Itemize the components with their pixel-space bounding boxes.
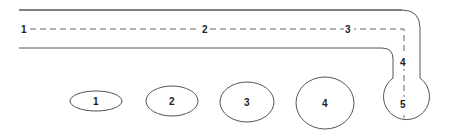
ellipse-label-3: 3 <box>244 97 250 108</box>
path-label-2: 2 <box>202 24 208 35</box>
dashed-centerline <box>30 29 404 118</box>
path-label-4: 4 <box>400 57 406 68</box>
tube-diagram: 1 2 3 4 5 1 2 3 4 <box>0 0 450 137</box>
tube-outer-wall <box>19 10 429 120</box>
path-label-3: 3 <box>345 24 351 35</box>
path-label-5: 5 <box>400 99 406 110</box>
path-label-1: 1 <box>21 24 27 35</box>
ellipse-label-2: 2 <box>169 96 175 107</box>
ellipse-label-1: 1 <box>93 96 99 107</box>
ellipse-label-4: 4 <box>322 98 328 109</box>
